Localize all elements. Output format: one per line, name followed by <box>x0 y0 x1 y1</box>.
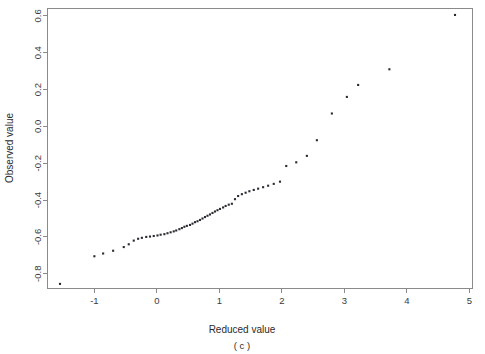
data-point <box>285 165 287 167</box>
data-point <box>178 228 180 230</box>
y-tick-label: 0.6 <box>32 9 43 22</box>
y-tick-label: -0.8 <box>32 266 43 282</box>
data-point <box>253 189 255 191</box>
data-point <box>211 212 213 214</box>
data-point <box>216 209 218 211</box>
x-tick-label: 1 <box>217 295 222 306</box>
data-point <box>163 233 165 235</box>
x-tick-label: 0 <box>154 295 159 306</box>
data-point <box>175 229 177 231</box>
data-point <box>346 96 348 98</box>
data-point <box>93 255 95 257</box>
data-point <box>183 226 185 228</box>
data-point <box>454 14 456 16</box>
data-point <box>222 206 224 208</box>
y-tick-label: -0.4 <box>32 192 43 208</box>
x-tick-label: 3 <box>342 295 347 306</box>
data-point <box>267 185 269 187</box>
data-point <box>149 236 151 238</box>
data-point <box>160 234 162 236</box>
data-point <box>214 210 216 212</box>
data-point <box>219 208 221 210</box>
plot-background <box>0 0 485 354</box>
data-point <box>133 240 135 242</box>
y-tick-label: 0.0 <box>32 120 43 133</box>
data-point <box>225 205 227 207</box>
data-point <box>306 155 308 157</box>
data-point <box>166 232 168 234</box>
x-axis-title: Reduced value <box>209 324 276 335</box>
data-point <box>273 183 275 185</box>
data-point <box>170 231 172 233</box>
y-tick-label: 0.4 <box>32 46 43 59</box>
data-point <box>388 68 390 70</box>
data-point <box>206 215 208 217</box>
scatter-plot-figure: 0.60.40.20.0-0.2-0.4-0.6-0.8 -1012345 Re… <box>0 0 485 354</box>
data-point <box>194 221 196 223</box>
data-point <box>231 203 233 205</box>
data-point <box>145 236 147 238</box>
panel-caption: ( c ) <box>234 340 250 351</box>
data-point <box>295 161 297 163</box>
data-point <box>234 198 236 200</box>
data-point <box>102 252 104 254</box>
data-point <box>237 195 239 197</box>
data-point <box>186 225 188 227</box>
x-tick-label: 4 <box>404 295 409 306</box>
data-point <box>112 250 114 252</box>
x-tick-label: -1 <box>90 295 98 306</box>
data-point <box>189 224 191 226</box>
data-point <box>201 217 203 219</box>
y-axis-title: Observed value <box>4 113 15 183</box>
data-point <box>279 181 281 183</box>
data-point <box>241 193 243 195</box>
data-point <box>173 230 175 232</box>
x-tick-label: 2 <box>279 295 284 306</box>
y-tick-label: -0.2 <box>32 155 43 171</box>
data-point <box>181 227 183 229</box>
data-point <box>248 190 250 192</box>
data-point <box>191 223 193 225</box>
x-tick-label: 5 <box>467 295 472 306</box>
y-tick-label: -0.6 <box>32 229 43 245</box>
data-point <box>204 216 206 218</box>
data-point <box>262 186 264 188</box>
data-point <box>59 283 61 285</box>
data-point <box>141 237 143 239</box>
data-point <box>153 235 155 237</box>
data-point <box>357 84 359 86</box>
plot-svg: 0.60.40.20.0-0.2-0.4-0.6-0.8 -1012345 Re… <box>0 0 485 354</box>
data-point <box>199 219 201 221</box>
data-point <box>228 204 230 206</box>
data-point <box>196 220 198 222</box>
data-point <box>156 234 158 236</box>
data-point <box>137 238 139 240</box>
data-point <box>257 188 259 190</box>
data-point <box>316 139 318 141</box>
data-point <box>123 246 125 248</box>
data-point <box>209 213 211 215</box>
data-point <box>128 243 130 245</box>
data-point <box>331 112 333 114</box>
data-point <box>245 192 247 194</box>
y-tick-label: 0.2 <box>32 83 43 96</box>
